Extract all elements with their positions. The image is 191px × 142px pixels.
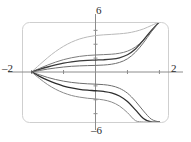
y-axis-max-label: 6: [96, 5, 102, 16]
x-axis-max-label: 2: [171, 63, 177, 74]
x-axis-min-label: –2: [2, 63, 13, 74]
plot-canvas: [0, 0, 191, 142]
chart-figure: –2 2 6 –6: [0, 0, 191, 142]
y-axis-min-label: –6: [91, 125, 102, 136]
